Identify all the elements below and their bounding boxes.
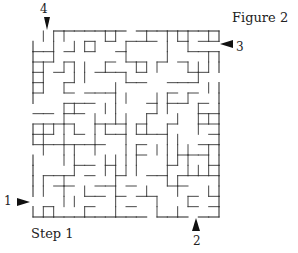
marker-3-label: 3: [236, 40, 244, 54]
maze-diagram: [0, 0, 298, 253]
arrow-3-icon: [220, 40, 233, 48]
figure-title: Figure 2: [232, 10, 288, 25]
marker-2-label: 2: [193, 234, 201, 248]
marker-1-label: 1: [4, 194, 12, 208]
arrow-1-icon: [17, 198, 30, 206]
arrow-2-icon: [192, 218, 200, 231]
arrow-4-icon: [44, 17, 50, 30]
step-label: Step 1: [31, 226, 74, 241]
marker-4-label: 4: [40, 2, 48, 16]
